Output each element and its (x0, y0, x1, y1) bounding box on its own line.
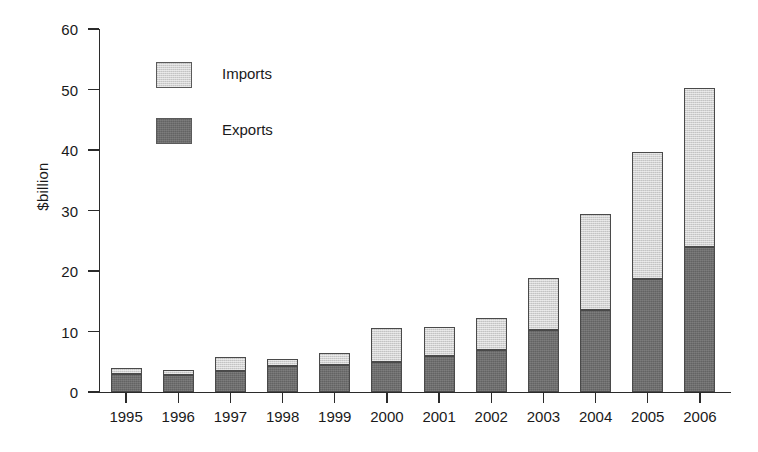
bar-segment-exports (424, 356, 455, 392)
bar-segment-exports (319, 365, 350, 392)
legend-swatch-imports (156, 62, 192, 88)
bar-segment-imports (632, 152, 663, 280)
bar-segment-imports (371, 328, 402, 362)
bar-group (528, 29, 559, 392)
bar-segment-imports (215, 357, 246, 371)
y-axis-tick-label: 20 (18, 263, 78, 280)
y-axis-tick-label: 30 (18, 202, 78, 219)
bar-segment-exports (476, 350, 507, 392)
x-axis-tick (334, 392, 335, 403)
bar-segment-exports (215, 371, 246, 392)
legend-label-exports: Exports (222, 121, 273, 138)
bar-group (371, 29, 402, 392)
x-axis-tick-label: 2006 (665, 408, 735, 425)
bar-segment-exports (267, 366, 298, 392)
bar-segment-imports (684, 88, 715, 248)
bars-layer (100, 29, 726, 392)
x-axis-tick (282, 392, 283, 403)
bar-segment-exports (111, 374, 142, 392)
bar-segment-exports (371, 362, 402, 392)
y-axis-tick (88, 391, 99, 392)
bar-segment-exports (528, 330, 559, 392)
x-axis-tick (699, 392, 700, 403)
bar-segment-imports (476, 318, 507, 350)
bar-group (215, 29, 246, 392)
bar-segment-imports (424, 327, 455, 356)
x-axis-tick (491, 392, 492, 403)
y-axis-tick-label: 40 (18, 142, 78, 159)
bar-group (580, 29, 611, 392)
y-axis-tick (88, 28, 99, 29)
y-axis-tick (88, 89, 99, 90)
x-axis-tick (230, 392, 231, 403)
x-axis-tick (438, 392, 439, 403)
x-axis-tick (178, 392, 179, 403)
y-axis-tick-label: 50 (18, 81, 78, 98)
bar-segment-imports (267, 359, 298, 366)
legend-swatch-exports (156, 118, 192, 144)
x-axis-tick (595, 392, 596, 403)
y-axis-tick (88, 210, 99, 211)
bar-segment-exports (163, 375, 194, 392)
stacked-bar-chart: $billion 0102030405060 19951996199719981… (0, 0, 758, 452)
x-axis-tick (125, 392, 126, 403)
y-axis-tick (88, 270, 99, 271)
y-axis-tick-label: 0 (18, 384, 78, 401)
y-axis-tick (88, 331, 99, 332)
x-axis-tick (647, 392, 648, 403)
bar-segment-imports (580, 214, 611, 310)
bar-segment-imports (319, 353, 350, 366)
y-axis-tick-label: 10 (18, 323, 78, 340)
bar-segment-exports (684, 247, 715, 392)
bar-segment-imports (111, 368, 142, 373)
bar-group (424, 29, 455, 392)
legend-label-imports: Imports (222, 65, 272, 82)
bar-group (111, 29, 142, 392)
y-axis-tick (88, 149, 99, 150)
bar-segment-exports (580, 310, 611, 392)
bar-group (684, 29, 715, 392)
x-axis-tick (543, 392, 544, 403)
bar-group (267, 29, 298, 392)
x-axis-tick (386, 392, 387, 403)
bar-group (319, 29, 350, 392)
y-axis-tick-label: 60 (18, 21, 78, 38)
bar-segment-exports (632, 279, 663, 392)
bar-group (476, 29, 507, 392)
bar-segment-imports (528, 278, 559, 330)
bar-group (632, 29, 663, 392)
bar-segment-imports (163, 370, 194, 375)
